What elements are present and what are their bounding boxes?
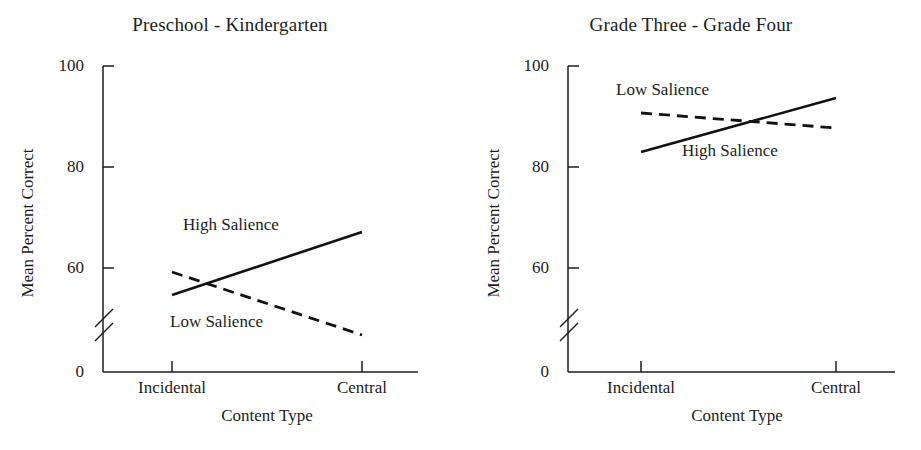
plot-area (461, 0, 921, 450)
axis-break-mark-lower (95, 323, 113, 341)
series-line-low-salience (172, 272, 362, 335)
plot-area (0, 0, 460, 450)
axis-break-mark-lower (560, 323, 578, 341)
axis-break-mark-upper (560, 309, 578, 327)
panel-preschool-kindergarten: Preschool - Kindergarten Mean Percent Co… (0, 0, 460, 450)
axis-break-mark-upper (95, 309, 113, 327)
series-line-high-salience (172, 232, 362, 295)
panel-grade-three-grade-four: Grade Three - Grade Four Mean Percent Co… (461, 0, 921, 450)
figure-canvas: Preschool - Kindergarten Mean Percent Co… (0, 0, 921, 450)
